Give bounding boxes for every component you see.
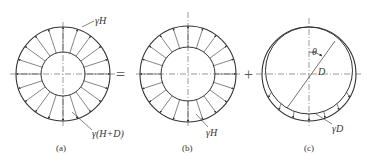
- arrow: [347, 92, 350, 97]
- panel-c: θ D γD (c): [256, 18, 362, 153]
- arrow: [196, 28, 202, 48]
- label-gamma-h: γH: [95, 15, 107, 26]
- label-diameter: D: [317, 66, 326, 77]
- caption-a: (a): [56, 143, 66, 153]
- arrow: [149, 90, 166, 102]
- arrow: [81, 87, 101, 102]
- arrow: [149, 46, 166, 58]
- label-gamma-h-plus-d: γ(H+D): [92, 128, 124, 140]
- arrow: [48, 95, 56, 119]
- label-gamma-d: γD: [332, 123, 344, 134]
- arrow: [18, 59, 42, 67]
- arrow: [268, 92, 271, 97]
- arrow: [25, 87, 45, 102]
- arrow: [76, 36, 91, 56]
- arrow: [293, 111, 294, 118]
- arrow: [337, 104, 339, 110]
- arrow: [214, 82, 234, 88]
- arrow: [160, 35, 172, 52]
- arrow: [279, 104, 281, 110]
- arrow: [84, 59, 108, 67]
- arrow: [18, 81, 42, 89]
- arrow: [84, 81, 108, 89]
- leader-line: [82, 21, 94, 27]
- arrow: [81, 46, 101, 61]
- diameter-line: [287, 41, 335, 108]
- arrow: [48, 29, 56, 53]
- arrow: [173, 28, 179, 48]
- arrow: [35, 36, 50, 56]
- arrow: [70, 29, 78, 53]
- arrow: [25, 46, 45, 61]
- arrow: [76, 92, 91, 112]
- arrow: [196, 100, 202, 120]
- arrow: [160, 96, 172, 113]
- leader-line: [72, 112, 92, 130]
- arrow: [204, 96, 216, 113]
- leader-line: [316, 114, 332, 124]
- panel-a: γH γ(H+D) (a): [10, 15, 124, 153]
- arrow: [210, 46, 227, 58]
- panel-b: γH (b): [136, 12, 240, 153]
- arrow: [210, 90, 227, 102]
- arrow: [214, 59, 234, 65]
- arrow: [324, 111, 325, 118]
- arrow: [142, 82, 162, 88]
- arrow: [173, 100, 179, 120]
- caption-b: (b): [182, 143, 193, 153]
- arrow: [204, 35, 216, 52]
- arrow: [35, 92, 50, 112]
- plus-sign: +: [244, 66, 253, 83]
- diagram-canvas: γH γ(H+D) (a) = γH (b) + θ D γD (c): [0, 0, 367, 162]
- label-theta: θ: [312, 46, 317, 57]
- caption-c: (c): [304, 143, 314, 153]
- arrow: [70, 95, 78, 119]
- equals-sign: =: [116, 66, 125, 83]
- arrow: [142, 59, 162, 65]
- label-gamma-h: γH: [206, 127, 218, 138]
